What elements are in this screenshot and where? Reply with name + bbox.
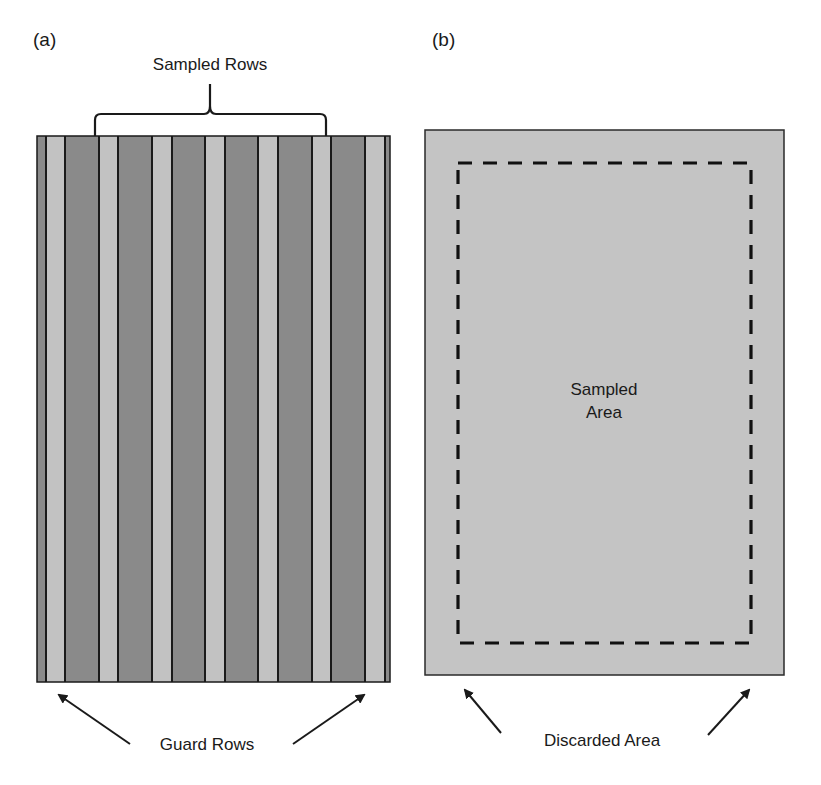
guard-row-stripe [99,136,118,682]
guard-row-right-arrow-icon [293,695,364,744]
guard-row-stripe [152,136,172,682]
discarded-left-arrow-icon [465,690,501,733]
guard-row-stripe [46,136,65,682]
guard-rows-label: Guard Rows [147,735,267,755]
bracket-icon [95,84,326,136]
sampled-row-stripe [65,136,99,682]
sampled-row-stripe [331,136,365,682]
sampled-rows-label: Sampled Rows [150,55,270,75]
guard-row-stripe [205,136,225,682]
sampled-row-stripe [225,136,258,682]
guard-row-left-arrow-icon [59,695,130,744]
guard-row-stripe [365,136,385,682]
discarded-area-label: Discarded Area [532,731,672,751]
guard-row-stripe [312,136,331,682]
sampled-row-stripe [172,136,205,682]
field-plot-striped [37,136,390,682]
sampled-row-stripe [37,136,46,682]
sampled-row-stripe [118,136,152,682]
guard-row-stripe [258,136,278,682]
diagram-canvas [0,0,821,785]
discarded-right-arrow-icon [708,690,749,735]
sampled-area-label-line1: Sampled [554,380,654,400]
sampled-row-stripe [278,136,312,682]
sampled-area-label-line2: Area [554,403,654,423]
